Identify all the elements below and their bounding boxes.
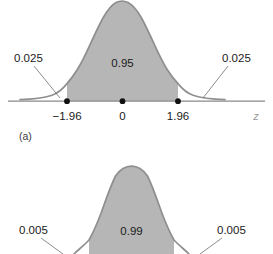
statistics-figure: 0.025 0.95 0.025 −1.96 0 1.96 z (a) 0.00… [0, 0, 273, 254]
tick-label-zero: 0 [119, 110, 125, 122]
x-axis-label: z [252, 110, 259, 122]
leader-line-right-tail-b [200, 238, 222, 254]
leader-line-left-tail-b [41, 238, 63, 254]
right-tail-label-b: 0.005 [217, 224, 246, 236]
panel-label-a: (a) [19, 130, 32, 142]
chart-panel-b: 0.005 0.99 0.005 [0, 154, 273, 254]
shaded-area-95 [67, 1, 178, 101]
tick-label-neg196: −1.96 [52, 110, 81, 122]
leader-line-right-tail [203, 66, 228, 98]
tick-label-pos196: 1.96 [167, 110, 189, 122]
tick-dot-neg196 [64, 98, 70, 104]
leader-line-left-tail [34, 66, 60, 98]
tick-dot-zero [120, 98, 126, 104]
right-tail-label: 0.025 [222, 52, 251, 64]
chart-panel-a: 0.025 0.95 0.025 −1.96 0 1.96 z [0, 0, 273, 130]
tick-dot-pos196 [175, 98, 181, 104]
left-tail-label-b: 0.005 [19, 224, 48, 236]
center-area-label: 0.95 [111, 57, 133, 69]
center-area-label-b: 0.99 [120, 225, 142, 237]
left-tail-label: 0.025 [14, 52, 43, 64]
